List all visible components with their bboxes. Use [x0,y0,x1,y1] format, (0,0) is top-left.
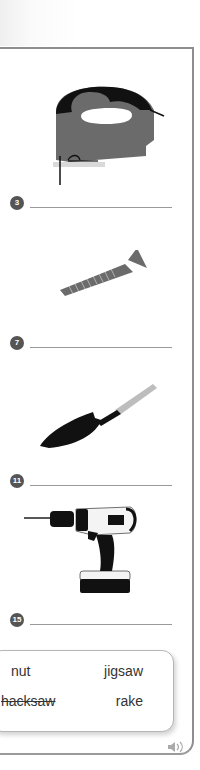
word-bank-word: rake [116,693,143,709]
trowel-illustration [35,380,160,455]
jigsaw-illustration [50,82,170,187]
word-bank-word: jigsaw [104,663,143,679]
answer-item: 15 [10,613,175,629]
answer-line[interactable] [30,624,172,625]
speaker-icon[interactable] [166,740,186,754]
item-number-badge: 11 [10,474,24,488]
answer-line[interactable] [30,485,172,486]
item-number-badge: 3 [10,196,24,210]
answer-item: 7 [10,336,175,352]
screw-illustration [55,250,155,300]
answer-item: 3 [10,196,175,212]
word-bank-word-used: hacksaw [1,693,55,709]
word-bank: nut jigsaw hacksaw rake [0,650,174,732]
word-bank-word: nut [11,663,30,679]
item-number-badge: 15 [10,613,24,627]
item-number-badge: 7 [10,336,24,350]
page-margin [0,0,200,46]
answer-line[interactable] [30,347,172,348]
answer-item: 11 [10,474,175,490]
answer-line[interactable] [30,207,172,208]
cordless-drill-illustration [22,505,142,600]
